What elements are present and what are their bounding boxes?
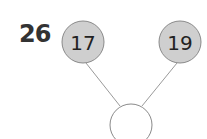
number-bond-svg: 17 19: [0, 0, 207, 139]
part-right-label: 19: [167, 31, 192, 55]
part-circle-left: 17: [62, 21, 104, 63]
part-left-label: 17: [70, 31, 95, 55]
connector-right: [142, 63, 177, 106]
number-bond-diagram: 26 17 19: [0, 0, 207, 139]
part-circle-right: 19: [159, 21, 201, 63]
whole-circle-answer[interactable]: [110, 104, 152, 139]
connector-left: [86, 63, 120, 106]
